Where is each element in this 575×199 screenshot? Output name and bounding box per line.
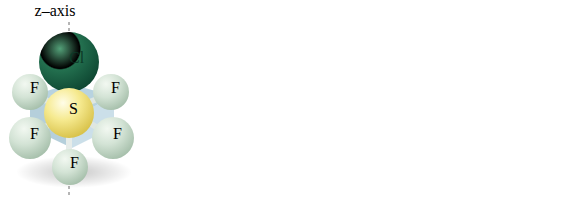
figure-canvas: F F Cl S F F F z–axis [0, 0, 575, 199]
atom-label-fluorine: F [111, 79, 120, 96]
atom-label-sulfur: S [69, 100, 78, 117]
atom-label-fluorine: F [30, 79, 39, 96]
atom-label-fluorine: F [113, 125, 122, 142]
atom-label-fluorine: F [30, 125, 39, 142]
molecule-panel-z-axis: F F Cl S F F F z–axis [0, 0, 192, 199]
z-axis-label: z–axis [35, 2, 76, 19]
atom-label-fluorine: F [70, 154, 79, 171]
atom-label-chlorine: Cl [69, 49, 85, 66]
